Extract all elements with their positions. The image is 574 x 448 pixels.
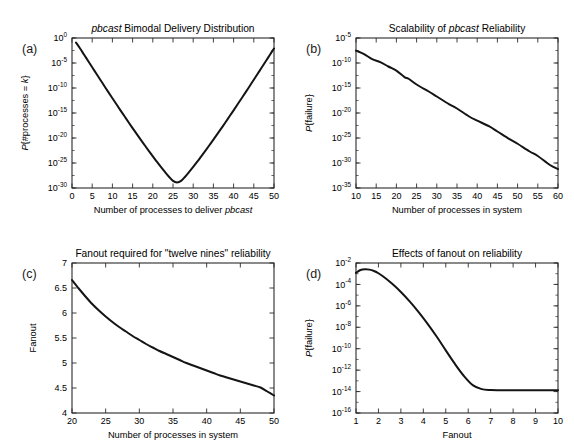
x-tick-label: 50 xyxy=(513,191,523,201)
y-tick-label: 10-4 xyxy=(335,277,351,289)
y-tick-label: 10-10 xyxy=(332,56,352,68)
panel-letter: (c) xyxy=(22,267,37,281)
x-tick-label: 40 xyxy=(202,416,212,426)
x-tick-label: 50 xyxy=(269,416,279,426)
y-axis-label: P{failure} xyxy=(304,319,314,357)
y-tick-label: 10-10 xyxy=(48,81,68,93)
x-tick-label: 7 xyxy=(488,416,493,426)
x-tick-label: 30 xyxy=(134,416,144,426)
x-tick-label: 35 xyxy=(452,191,462,201)
x-tick-label: 10 xyxy=(351,191,361,201)
x-tick-label: 35 xyxy=(208,191,218,201)
panel-letter: (b) xyxy=(306,42,321,56)
x-tick-label: 45 xyxy=(492,191,502,201)
x-axis-label: Fanout xyxy=(443,430,472,440)
data-curve xyxy=(356,269,558,390)
y-tick-label: 6.5 xyxy=(54,283,67,293)
y-tick-label: 10-5 xyxy=(51,56,67,68)
y-tick-label: 10-8 xyxy=(335,320,351,332)
panel-title: Scalability of pbcast Reliability xyxy=(389,23,526,34)
y-tick-label: 10-20 xyxy=(48,131,68,143)
data-curve xyxy=(76,43,274,183)
y-tick-label: 5.5 xyxy=(54,333,67,343)
x-tick-label: 10 xyxy=(107,191,117,201)
subplot-b: (b)Scalability of pbcast Reliability1015… xyxy=(304,23,563,215)
x-tick-label: 9 xyxy=(533,416,538,426)
y-tick-label: 10-30 xyxy=(48,181,68,193)
x-tick-label: 8 xyxy=(511,416,516,426)
x-tick-label: 40 xyxy=(229,191,239,201)
x-tick-label: 45 xyxy=(249,191,259,201)
four-panel-figure: (a)pbcast Bimodal Delivery Distribution0… xyxy=(0,0,574,448)
x-axis-label: Number of processes to deliver pbcast xyxy=(94,205,253,215)
subplot-c: (c)Fanout required for "twelve nines" re… xyxy=(22,248,279,440)
y-tick-label: 10-16 xyxy=(332,406,352,418)
y-tick-label: 10-6 xyxy=(335,299,351,311)
subplot-a: (a)pbcast Bimodal Delivery Distribution0… xyxy=(20,23,279,215)
y-tick-label: 10-30 xyxy=(332,156,352,168)
x-tick-label: 30 xyxy=(432,191,442,201)
x-tick-label: 5 xyxy=(443,416,448,426)
panel-title: Effects of fanout on reliability xyxy=(392,248,523,259)
x-tick-label: 20 xyxy=(67,416,77,426)
panel-letter: (d) xyxy=(306,267,321,281)
y-tick-label: 100 xyxy=(53,31,67,43)
y-tick-label: 10-15 xyxy=(48,106,68,118)
y-axis-label: Fanout xyxy=(28,323,38,352)
x-tick-label: 30 xyxy=(188,191,198,201)
y-tick-label: 10-35 xyxy=(332,181,352,193)
x-tick-label: 25 xyxy=(412,191,422,201)
y-tick-label: 10-25 xyxy=(48,156,68,168)
y-tick-label: 4.5 xyxy=(54,383,67,393)
y-axis-label: P{failure} xyxy=(304,94,314,132)
x-tick-label: 3 xyxy=(398,416,403,426)
x-tick-label: 10 xyxy=(553,416,563,426)
x-tick-label: 15 xyxy=(128,191,138,201)
data-curve xyxy=(356,51,558,170)
x-axis-label: Number of processes in system xyxy=(108,430,238,440)
y-axis-label: P{#processes = k} xyxy=(20,75,30,150)
y-tick-label: 5 xyxy=(62,358,67,368)
y-tick-label: 10-14 xyxy=(332,385,352,397)
x-tick-label: 25 xyxy=(168,191,178,201)
y-tick-label: 7 xyxy=(62,258,67,268)
x-tick-label: 0 xyxy=(69,191,74,201)
subplot-d: (d)Effects of fanout on reliability12345… xyxy=(304,248,563,440)
y-tick-label: 10-5 xyxy=(335,31,351,43)
x-tick-label: 20 xyxy=(148,191,158,201)
y-tick-label: 10-25 xyxy=(332,131,352,143)
y-tick-label: 10-15 xyxy=(332,81,352,93)
panel-title: Fanout required for "twelve nines" relia… xyxy=(75,248,271,259)
x-tick-label: 45 xyxy=(235,416,245,426)
x-tick-label: 35 xyxy=(168,416,178,426)
y-tick-label: 10-10 xyxy=(332,342,352,354)
y-tick-label: 10-20 xyxy=(332,106,352,118)
data-curve xyxy=(72,280,274,396)
x-tick-label: 40 xyxy=(472,191,482,201)
x-tick-label: 1 xyxy=(353,416,358,426)
x-tick-label: 55 xyxy=(533,191,543,201)
y-tick-label: 10-12 xyxy=(332,363,352,375)
x-tick-label: 25 xyxy=(101,416,111,426)
x-tick-label: 15 xyxy=(371,191,381,201)
x-axis-label: Number of processes in system xyxy=(392,205,522,215)
y-tick-label: 4 xyxy=(62,408,67,418)
x-tick-label: 4 xyxy=(421,416,426,426)
x-tick-label: 6 xyxy=(466,416,471,426)
y-tick-label: 10-2 xyxy=(335,256,351,268)
x-tick-label: 20 xyxy=(391,191,401,201)
x-tick-label: 5 xyxy=(90,191,95,201)
x-tick-label: 2 xyxy=(376,416,381,426)
x-tick-label: 60 xyxy=(553,191,563,201)
y-tick-label: 6 xyxy=(62,308,67,318)
panel-letter: (a) xyxy=(22,42,37,56)
panel-title: pbcast Bimodal Delivery Distribution xyxy=(90,23,254,34)
x-tick-label: 50 xyxy=(269,191,279,201)
